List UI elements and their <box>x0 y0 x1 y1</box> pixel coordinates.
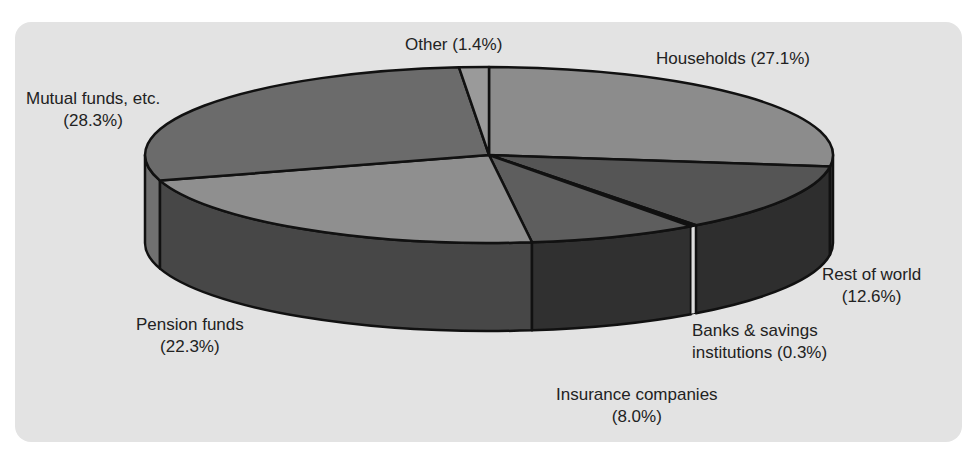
label-pension-funds: Pension funds (22.3%) <box>136 314 244 358</box>
label-insurance-line2: (8.0%) <box>556 406 718 428</box>
label-row-line1: Rest of world <box>822 264 921 286</box>
label-insurance-line1: Insurance companies <box>556 384 718 406</box>
label-households: Households (27.1%) <box>656 48 810 70</box>
slice-side-households <box>830 155 833 255</box>
label-pension-line2: (22.3%) <box>136 336 244 358</box>
slice-households <box>489 67 833 167</box>
label-pension-line1: Pension funds <box>136 314 244 336</box>
label-row-line2: (12.6%) <box>822 286 921 308</box>
label-banks: Banks & savings institutions (0.3%) <box>692 320 827 364</box>
label-rest-of-world: Rest of world (12.6%) <box>822 264 921 308</box>
label-mutual-line2: (28.3%) <box>26 110 160 132</box>
label-mutual-line1: Mutual funds, etc. <box>26 88 160 110</box>
label-other: Other (1.4%) <box>405 34 502 56</box>
label-households-text: Households (27.1%) <box>656 48 810 70</box>
label-banks-line2: institutions (0.3%) <box>692 342 827 364</box>
pie-chart-3d <box>0 0 980 460</box>
label-banks-line1: Banks & savings <box>692 320 827 342</box>
label-insurance: Insurance companies (8.0%) <box>556 384 718 428</box>
label-mutual-funds: Mutual funds, etc. (28.3%) <box>26 88 160 132</box>
label-other-text: Other (1.4%) <box>405 34 502 56</box>
